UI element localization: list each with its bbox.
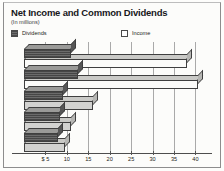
bar-income-side-face	[198, 70, 203, 84]
chart-card: Net Income and Common Dividends (In mill…	[0, 0, 224, 171]
x-axis: $ 510152025303540	[12, 155, 212, 167]
chart-subtitle: (In millions)	[11, 19, 40, 25]
x-axis-tick	[153, 151, 154, 155]
bar-dividends[interactable]	[24, 70, 78, 79]
x-axis-tick-label: 25	[128, 156, 134, 162]
chart-title: Net Income and Common Dividends	[11, 7, 167, 18]
bar-dividends[interactable]	[24, 49, 71, 58]
axis-baseline	[12, 153, 212, 154]
x-axis-tick	[131, 151, 132, 155]
bar-income-side-face	[65, 133, 70, 147]
bar-group	[12, 42, 212, 154]
legend-item-dividends: Dividends	[11, 28, 47, 38]
legend-item-income: Income	[121, 28, 150, 38]
x-axis-tick-label: $ 5	[42, 156, 50, 162]
white-square-icon	[121, 30, 128, 37]
x-axis-tick-label: 30	[149, 156, 155, 162]
chart-legend: Dividends Income	[11, 28, 201, 38]
bar-dividends[interactable]	[24, 133, 58, 142]
legend-label-dividends: Dividends	[22, 30, 47, 36]
legend-label-income: Income	[132, 30, 150, 36]
x-axis-tick-label: 40	[192, 156, 198, 162]
bar-income-side-face	[187, 49, 192, 63]
x-axis-tick	[110, 151, 111, 155]
bar-dividends[interactable]	[24, 112, 60, 121]
x-axis-tick	[195, 151, 196, 155]
bar-income-side-face	[71, 112, 76, 126]
bar-dividends-side-face	[58, 123, 63, 137]
x-axis-tick	[88, 151, 89, 155]
x-axis-tick-label: 20	[107, 156, 113, 162]
bar-dividends[interactable]	[24, 91, 63, 100]
plot-area	[12, 42, 212, 154]
bar-dividends-side-face	[60, 102, 65, 116]
x-axis-tick-label: 15	[85, 156, 91, 162]
dark-hatched-square-icon	[11, 30, 18, 37]
x-axis-tick-label: 10	[64, 156, 70, 162]
bar-income-side-face	[93, 91, 98, 105]
x-axis-tick-label: 35	[171, 156, 177, 162]
x-axis-tick	[67, 151, 68, 155]
bar-income[interactable]	[24, 143, 65, 152]
x-axis-tick	[174, 151, 175, 155]
